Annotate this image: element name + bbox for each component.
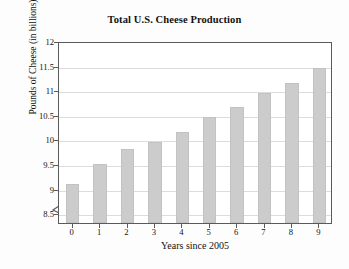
x-tick-label: 1 [89,227,109,237]
x-tick-mark [236,224,237,228]
x-tick-mark [209,224,210,228]
bar [121,149,135,223]
x-tick-label: 0 [62,227,82,237]
bar [93,164,107,223]
y-tick-label: 10 [20,135,54,145]
y-tick-label: 9.5 [20,160,54,170]
x-tick-mark [72,224,73,228]
x-tick-label: 4 [171,227,191,237]
x-tick-mark [291,224,292,228]
bar [66,184,80,223]
x-tick-label: 3 [144,227,164,237]
x-tick-mark [181,224,182,228]
y-tick-label: 8.5 [20,209,54,219]
gridline [59,68,331,69]
bar [148,142,162,223]
x-tick-label: 5 [199,227,219,237]
x-tick-label: 7 [254,227,274,237]
x-tick-label: 2 [117,227,137,237]
bar [230,107,244,223]
y-axis-label: Pounds of Cheese (in billions) [26,0,40,152]
chart-title: Total U.S. Cheese Production [0,14,349,25]
x-tick-mark [154,224,155,228]
bar [285,83,299,223]
x-axis-label: Years since 2005 [58,240,332,251]
y-tick-label: 11 [20,86,54,96]
plot-area [58,42,332,224]
y-tick-label: 9 [20,185,54,195]
chart-figure: Total U.S. Cheese Production Pounds of C… [0,0,349,269]
x-tick-mark [99,224,100,228]
y-tick-label: 11.5 [20,62,54,72]
x-tick-label: 6 [226,227,246,237]
x-tick-mark [318,224,319,228]
y-tick-label: 12 [20,37,54,47]
x-tick-mark [127,224,128,228]
y-tick-label: 10.5 [20,111,54,121]
bar [176,132,190,223]
x-tick-label: 8 [281,227,301,237]
bar [313,68,327,223]
bar [258,93,272,223]
x-tick-mark [264,224,265,228]
bar [203,117,217,223]
x-tick-label: 9 [308,227,328,237]
